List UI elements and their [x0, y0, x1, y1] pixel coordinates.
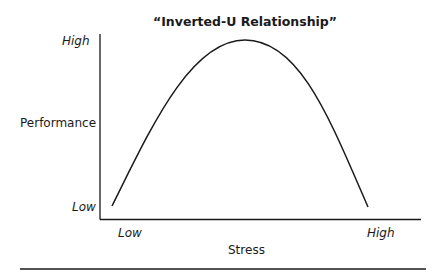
inverted-u-plot [0, 0, 441, 276]
inverted-u-curve [112, 40, 368, 207]
